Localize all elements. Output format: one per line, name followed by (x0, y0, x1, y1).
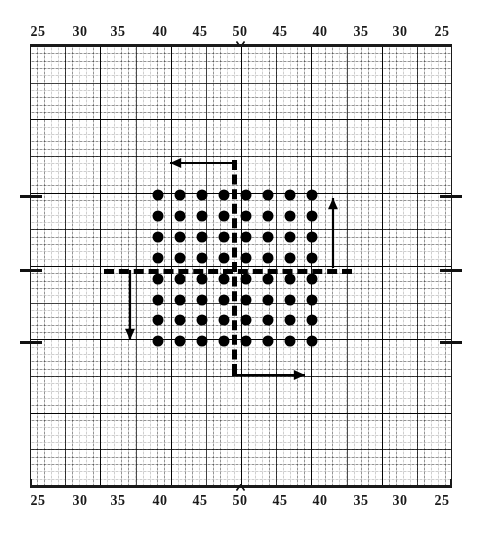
lattice-dot (197, 232, 208, 243)
lattice-dot (285, 274, 296, 285)
lattice-dot (219, 336, 230, 347)
bottom-axis-label: 50 (233, 491, 248, 511)
lattice-dot (307, 336, 318, 347)
lattice-dot (285, 336, 296, 347)
lattice-dot (219, 253, 230, 264)
side-tick-left (20, 341, 42, 344)
lattice-dot (241, 336, 252, 347)
lattice-dot (241, 315, 252, 326)
lattice-dot (153, 211, 164, 222)
lattice-dot (285, 315, 296, 326)
lattice-dot (285, 295, 296, 306)
lattice-dot (241, 211, 252, 222)
lattice-dot (307, 232, 318, 243)
major-gridlines (30, 46, 452, 486)
lattice-dot (197, 190, 208, 201)
lattice-dot (153, 315, 164, 326)
lattice-dot (263, 211, 274, 222)
plot-area (30, 46, 452, 486)
lattice-dot (219, 232, 230, 243)
arrow-right-bottom-icon (222, 365, 315, 385)
lattice-dot (241, 190, 252, 201)
lattice-dot (175, 211, 186, 222)
top-axis-label: 40 (313, 22, 328, 42)
top-axis-label: 25 (435, 22, 450, 42)
lattice-dot (263, 336, 274, 347)
bottom-axis-label: 25 (31, 491, 46, 511)
bottom-axis-label: 35 (354, 491, 369, 511)
top-axis-label: 50 (233, 22, 248, 42)
top-axis-label: 40 (153, 22, 168, 42)
lattice-dot (219, 315, 230, 326)
lattice-dot (153, 295, 164, 306)
bottom-axis-label: 35 (111, 491, 126, 511)
lattice-dot (219, 295, 230, 306)
lattice-dot (175, 274, 186, 285)
arrow-up-right-icon (323, 188, 343, 278)
lattice-dot (175, 232, 186, 243)
lattice-dot (285, 253, 296, 264)
bottom-axis-label-row: 2530354045504540353025 (0, 491, 482, 511)
side-tick-right (440, 195, 462, 198)
top-axis-label: 35 (111, 22, 126, 42)
lattice-dot (197, 315, 208, 326)
lattice-dot (175, 295, 186, 306)
top-axis-label: 25 (31, 22, 46, 42)
lattice-dot (263, 190, 274, 201)
lattice-dot (241, 274, 252, 285)
lattice-dot (307, 295, 318, 306)
lattice-dot (197, 295, 208, 306)
side-tick-left (20, 269, 42, 272)
top-axis-label-row: 2530354045504540353025 (0, 22, 482, 42)
bottom-axis-label: 40 (313, 491, 328, 511)
side-tick-right (440, 269, 462, 272)
crosshair-vertical-dashed-line (232, 160, 237, 374)
bottom-centre-caret-icon (236, 484, 245, 491)
lattice-dot (263, 232, 274, 243)
top-axis-label: 30 (73, 22, 88, 42)
lattice-dot (153, 190, 164, 201)
top-axis-label: 35 (354, 22, 369, 42)
lattice-dot (219, 190, 230, 201)
top-axis-label: 45 (273, 22, 288, 42)
lattice-dot (197, 211, 208, 222)
side-tick-left (20, 195, 42, 198)
lattice-dot (285, 190, 296, 201)
lattice-dot (175, 190, 186, 201)
top-axis-label: 45 (193, 22, 208, 42)
lattice-dot (307, 253, 318, 264)
lattice-dot (285, 211, 296, 222)
lattice-dot (153, 336, 164, 347)
lattice-dot (307, 211, 318, 222)
top-axis-label: 30 (393, 22, 408, 42)
bottom-axis-label: 45 (273, 491, 288, 511)
lattice-dot (219, 211, 230, 222)
lattice-dot (153, 253, 164, 264)
bottom-axis-label: 30 (73, 491, 88, 511)
bottom-axis-label: 40 (153, 491, 168, 511)
lattice-dot (241, 253, 252, 264)
bottom-right-axis-end-tick (450, 479, 452, 488)
lattice-dot (307, 190, 318, 201)
lattice-dot (153, 232, 164, 243)
lattice-dot (263, 274, 274, 285)
lattice-dot (175, 336, 186, 347)
lattice-dot (219, 274, 230, 285)
bottom-axis-label: 30 (393, 491, 408, 511)
lattice-dot (241, 295, 252, 306)
lattice-dot (175, 315, 186, 326)
side-tick-right (440, 341, 462, 344)
arrow-down-left-icon (120, 260, 140, 350)
lattice-dot (175, 253, 186, 264)
graph-paper-figure: 2530354045504540353025 25303540455045403… (0, 0, 482, 533)
bottom-axis-label: 45 (193, 491, 208, 511)
bottom-axis-label: 25 (435, 491, 450, 511)
lattice-dot (241, 232, 252, 243)
lattice-dot (307, 274, 318, 285)
lattice-dot (263, 315, 274, 326)
lattice-dot (197, 253, 208, 264)
bottom-left-axis-end-tick (30, 479, 32, 488)
crosshair-horizontal-dashed-line (104, 269, 352, 274)
arrow-left-top-icon (160, 153, 242, 173)
lattice-dot (197, 336, 208, 347)
